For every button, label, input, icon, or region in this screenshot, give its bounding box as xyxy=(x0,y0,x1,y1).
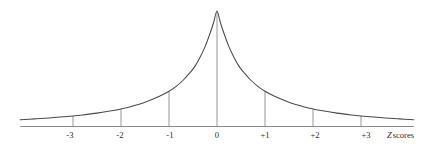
tick-label-plus-3: +3 xyxy=(361,130,370,140)
droplines-group xyxy=(73,11,361,126)
x-axis-title: Zscores xyxy=(387,130,414,140)
x-axis-title-text: scores xyxy=(393,130,414,140)
tick-label-minus-2: -2 xyxy=(116,130,123,140)
tick-label-plus-1: +1 xyxy=(260,130,269,140)
tick-label-minus-3: -3 xyxy=(66,130,73,140)
tick-label-plus-2: +2 xyxy=(310,130,319,140)
z-score-distribution-figure: -3 -2 -1 0 +1 +2 +3 Zscores xyxy=(0,0,429,147)
distribution-plot xyxy=(0,0,429,147)
tick-label-zero: 0 xyxy=(215,130,219,140)
tick-label-minus-1: -1 xyxy=(166,130,173,140)
